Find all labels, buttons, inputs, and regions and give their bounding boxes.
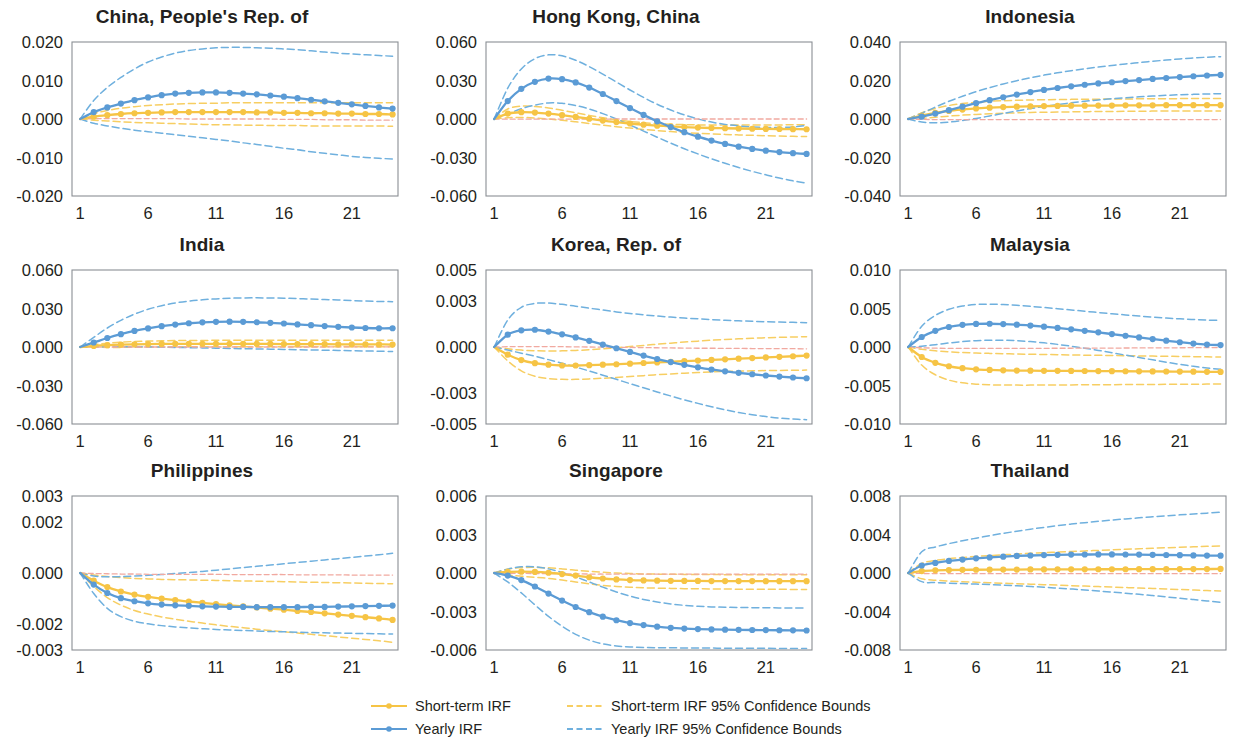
series-marker bbox=[376, 603, 382, 609]
plot-svg: 0.0100.0050.000-0.005-0.01016111621 bbox=[828, 258, 1232, 458]
series-marker bbox=[654, 578, 660, 584]
series-line bbox=[80, 92, 392, 119]
series-marker bbox=[654, 624, 660, 630]
series-marker bbox=[987, 105, 993, 111]
y-tick-label: -0.004 bbox=[844, 603, 891, 621]
series-marker bbox=[959, 365, 965, 371]
series-marker bbox=[199, 603, 205, 609]
series-marker bbox=[573, 362, 579, 368]
series-marker bbox=[1204, 341, 1210, 347]
series-marker bbox=[118, 595, 124, 601]
series-line bbox=[908, 573, 1220, 602]
series-marker bbox=[532, 360, 538, 366]
legend-label-short-term-bounds: Short-term IRF 95% Confidence Bounds bbox=[611, 698, 871, 714]
series-marker bbox=[559, 362, 565, 368]
series-marker bbox=[973, 321, 979, 327]
series-marker bbox=[1041, 552, 1047, 558]
series-marker bbox=[335, 111, 341, 117]
y-tick-label: 0.003 bbox=[22, 487, 63, 505]
series-marker bbox=[695, 134, 701, 140]
series-marker bbox=[159, 341, 165, 347]
plot-area: 0.0100.0050.000-0.005-0.01016111621 bbox=[828, 258, 1232, 458]
series-marker bbox=[1136, 102, 1142, 108]
series-marker bbox=[959, 322, 965, 328]
series-marker bbox=[749, 146, 755, 152]
series-marker bbox=[790, 627, 796, 633]
series-marker bbox=[145, 341, 151, 347]
x-tick-label: 16 bbox=[275, 658, 293, 676]
series-marker bbox=[763, 578, 769, 584]
series-marker bbox=[919, 562, 925, 568]
series-line bbox=[908, 569, 1220, 573]
irf-figure: China, People's Rep. of0.0200.0100.000-0… bbox=[0, 0, 1240, 742]
series-marker bbox=[708, 357, 714, 363]
series-marker bbox=[1000, 104, 1006, 110]
series-marker bbox=[349, 613, 355, 619]
y-tick-label: 0.000 bbox=[436, 564, 477, 582]
x-tick-label: 16 bbox=[1103, 658, 1121, 676]
y-tick-label: -0.003 bbox=[16, 641, 63, 659]
series-marker bbox=[736, 578, 742, 584]
series-marker bbox=[1150, 368, 1156, 374]
series-marker bbox=[668, 625, 674, 631]
series-marker bbox=[226, 319, 232, 325]
series-marker bbox=[1150, 566, 1156, 572]
series-marker bbox=[668, 359, 674, 365]
x-tick-label: 11 bbox=[621, 432, 638, 450]
series-marker bbox=[308, 322, 314, 328]
series-marker bbox=[586, 84, 592, 90]
series-marker bbox=[104, 590, 110, 596]
series-marker bbox=[1000, 554, 1006, 560]
series-marker bbox=[586, 362, 592, 368]
plot-svg: 0.0400.0200.000-0.020-0.04016111621 bbox=[828, 30, 1232, 230]
x-tick-label: 11 bbox=[621, 204, 638, 222]
series-marker bbox=[131, 328, 137, 334]
series-marker bbox=[1217, 566, 1223, 572]
series-marker bbox=[172, 90, 178, 96]
x-tick-label: 16 bbox=[689, 658, 707, 676]
series-marker bbox=[131, 598, 137, 604]
series-marker bbox=[294, 604, 300, 610]
plot-area: 0.0400.0200.000-0.020-0.04016111621 bbox=[828, 30, 1232, 230]
series-marker bbox=[518, 109, 524, 115]
series-marker bbox=[532, 569, 538, 575]
y-tick-label: 0.000 bbox=[436, 338, 477, 356]
series-marker bbox=[627, 620, 633, 626]
y-tick-label: -0.003 bbox=[430, 603, 477, 621]
series-marker bbox=[613, 98, 619, 104]
x-tick-label: 1 bbox=[490, 658, 499, 676]
series-marker bbox=[613, 617, 619, 623]
series-marker bbox=[389, 602, 395, 608]
series-line bbox=[494, 573, 806, 649]
series-marker bbox=[1000, 321, 1006, 327]
y-tick-label: -0.003 bbox=[430, 384, 477, 402]
series-line bbox=[908, 347, 1220, 372]
x-tick-label: 6 bbox=[557, 432, 566, 450]
legend-item-yearly-bounds: Yearly IRF 95% Confidence Bounds bbox=[566, 721, 842, 737]
series-marker bbox=[145, 325, 151, 331]
series-marker bbox=[1190, 102, 1196, 108]
series-marker bbox=[613, 119, 619, 125]
y-tick-label: 0.030 bbox=[436, 72, 477, 90]
series-marker bbox=[627, 120, 633, 126]
series-marker bbox=[1082, 566, 1088, 572]
series-marker bbox=[505, 98, 511, 104]
series-marker bbox=[668, 578, 674, 584]
series-marker bbox=[267, 320, 273, 326]
series-marker bbox=[1014, 566, 1020, 572]
series-marker bbox=[1095, 368, 1101, 374]
series-marker bbox=[640, 577, 646, 583]
series-marker bbox=[1122, 566, 1128, 572]
series-marker bbox=[1136, 334, 1142, 340]
series-marker bbox=[1041, 324, 1047, 330]
series-marker bbox=[362, 325, 368, 331]
series-marker bbox=[803, 578, 809, 584]
x-tick-label: 21 bbox=[757, 432, 775, 450]
x-tick-label: 16 bbox=[275, 204, 293, 222]
series-marker bbox=[586, 609, 592, 615]
series-marker bbox=[803, 126, 809, 132]
series-marker bbox=[973, 555, 979, 561]
series-marker bbox=[1041, 87, 1047, 93]
panel-hong-kong-china: Hong Kong, China0.0600.0300.000-0.030-0.… bbox=[414, 4, 818, 232]
series-marker bbox=[322, 323, 328, 329]
